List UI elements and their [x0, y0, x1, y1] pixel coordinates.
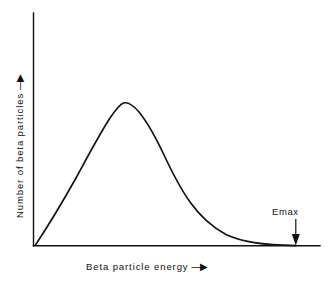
- beta-spectrum-figure: Number of beta particles—▶ Beta particle…: [0, 0, 330, 282]
- x-axis-arrow-icon: —▶: [192, 261, 206, 272]
- y-axis-label-text: Number of beta particles: [14, 93, 25, 218]
- emax-annotation-label: Emax: [272, 206, 299, 217]
- emax-arrow-head: [292, 234, 300, 246]
- x-axis-label-text: Beta particle energy: [86, 261, 189, 272]
- y-axis-label: Number of beta particles—▶: [9, 76, 27, 218]
- plot-area: [0, 0, 330, 282]
- beta-spectrum-curve: [36, 103, 297, 246]
- y-axis-arrow-icon: —▶: [14, 76, 25, 90]
- x-axis-label: Beta particle energy—▶: [86, 256, 206, 274]
